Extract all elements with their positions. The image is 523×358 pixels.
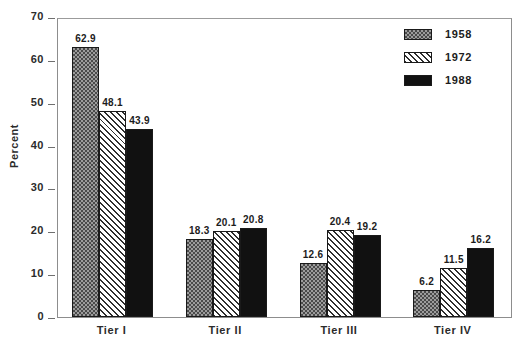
y-axis-tick-mark (48, 318, 55, 319)
legend-swatch-1958-icon (404, 29, 432, 40)
y-axis-tick-label: 20 (31, 224, 44, 236)
y-axis-tick-label: 60 (31, 53, 44, 65)
bar: 48.1 (99, 111, 126, 317)
bar-value-label: 11.5 (444, 254, 464, 265)
y-axis-tick-label: 30 (31, 181, 44, 193)
bar: 20.1 (213, 231, 240, 317)
bar: 6.2 (413, 290, 440, 317)
y-axis-tick-label: 70 (31, 10, 44, 22)
y-axis-tick-mark (48, 189, 55, 190)
y-axis-tick-label: 40 (31, 139, 44, 151)
y-axis-tick-mark (48, 275, 55, 276)
x-axis-tick-label: Tier I (72, 324, 152, 336)
y-axis-tick-label: 50 (31, 96, 44, 108)
y-axis-tick-mark (48, 18, 55, 19)
legend-label: 1988 (445, 74, 472, 86)
x-axis-tick-label: Tier III (299, 324, 379, 336)
bar-value-label: 20.8 (243, 214, 264, 225)
legend-swatch-1972-icon (404, 52, 432, 63)
bar: 12.6 (300, 263, 327, 317)
bar: 11.5 (440, 268, 467, 317)
legend-item: 1972 (404, 47, 504, 67)
bar-group: 62.948.143.9 (72, 19, 153, 317)
bar-chart: Percent 010203040506070 62.948.143.918.3… (0, 0, 523, 358)
bar-value-label: 6.2 (419, 276, 434, 287)
legend-item: 1988 (404, 70, 504, 90)
legend: 1958 1972 1988 (404, 24, 504, 93)
y-axis-tick-mark (48, 61, 55, 62)
y-axis-title: Percent (8, 106, 20, 186)
bar: 20.4 (327, 230, 354, 317)
legend-swatch-1988-icon (404, 75, 432, 86)
bar-value-label: 43.9 (129, 115, 150, 126)
bar-value-label: 19.2 (357, 221, 378, 232)
bar: 20.8 (240, 228, 267, 317)
y-axis-tick-mark (48, 104, 55, 105)
bar: 19.2 (354, 235, 381, 317)
y-axis-tick-mark (48, 147, 55, 148)
bar: 62.9 (72, 47, 99, 317)
bar-value-label: 16.2 (470, 234, 491, 245)
bar-value-label: 20.4 (330, 216, 351, 227)
legend-label: 1958 (445, 28, 472, 40)
bar-value-label: 62.9 (75, 33, 96, 44)
bar-value-label: 12.6 (303, 249, 324, 260)
y-axis-tick-label: 0 (37, 310, 44, 322)
bar-group: 18.320.120.8 (186, 19, 267, 317)
bar-group: 12.620.419.2 (300, 19, 381, 317)
legend-item: 1958 (404, 24, 504, 44)
bar: 43.9 (126, 129, 153, 317)
y-axis-tick-label: 10 (31, 267, 44, 279)
bar-value-label: 20.1 (216, 217, 237, 228)
x-axis-tick-label: Tier IV (413, 324, 493, 336)
bar: 16.2 (467, 248, 494, 317)
legend-label: 1972 (445, 51, 472, 63)
bar-value-label: 48.1 (102, 97, 123, 108)
bar-value-label: 18.3 (189, 225, 210, 236)
y-axis-tick-mark (48, 232, 55, 233)
x-axis-tick-label: Tier II (185, 324, 265, 336)
bar: 18.3 (186, 239, 213, 317)
